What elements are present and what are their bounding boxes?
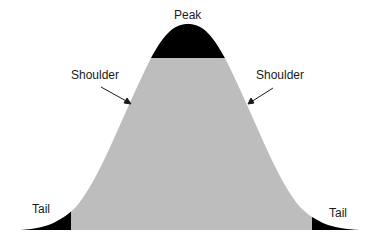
left-shoulder-label: Shoulder — [71, 69, 119, 81]
bell-curve-diagram — [0, 0, 376, 238]
left-shoulder-arrow — [101, 87, 128, 102]
right-arrowhead-icon — [248, 98, 254, 104]
peak-label: Peak — [174, 9, 201, 21]
right-tail-region — [312, 0, 376, 238]
right-tail-label: Tail — [329, 207, 347, 219]
left-tail-label: Tail — [32, 203, 50, 215]
right-shoulder-label: Shoulder — [256, 69, 304, 81]
left-arrowhead-icon — [124, 98, 131, 104]
right-shoulder-arrow — [251, 88, 273, 102]
